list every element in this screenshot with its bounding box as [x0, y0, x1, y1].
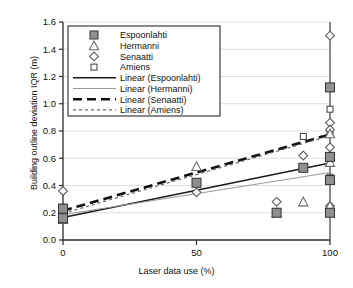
data-point-espoonlahti — [299, 163, 308, 172]
chart-figure: 0.00.20.40.60.81.01.21.41.6050100Espoonl… — [0, 0, 353, 288]
x-tick-label: 50 — [191, 247, 202, 258]
data-point-senaatti — [59, 187, 68, 196]
data-point-espoonlahti — [59, 204, 68, 213]
y-tick-label: 0.8 — [43, 125, 56, 136]
chart-svg: 0.00.20.40.60.81.01.21.41.6050100Espoonl… — [0, 0, 353, 288]
legend-label: Linear (Amiens) — [120, 105, 184, 115]
chart-canvas: 0.00.20.40.60.81.01.21.41.6050100Espoonl… — [0, 0, 353, 288]
data-point-amiens — [327, 106, 333, 112]
y-tick-label: 0.0 — [43, 234, 56, 245]
legend-label: Linear (Senaatti) — [120, 95, 187, 105]
data-point-espoonlahti — [90, 31, 98, 39]
y-tick-label: 0.2 — [43, 207, 56, 218]
legend-label: Espoonlahti — [120, 30, 167, 40]
data-point-amiens — [91, 64, 97, 70]
data-point-espoonlahti — [326, 176, 335, 185]
legend-label: Hermanni — [120, 41, 159, 51]
data-point-hermanni — [299, 197, 308, 206]
y-tick-label: 1.0 — [43, 98, 56, 109]
data-point-senaatti — [326, 143, 335, 152]
data-point-espoonlahti — [59, 214, 68, 223]
y-tick-label: 1.6 — [43, 16, 56, 27]
legend-label: Linear (Espoonlahti) — [120, 73, 201, 83]
y-tick-label: 0.6 — [43, 153, 56, 164]
legend-label: Linear (Hermanni) — [120, 84, 193, 94]
y-tick-label: 1.4 — [43, 44, 56, 55]
legend-label: Amiens — [120, 62, 151, 72]
data-point-hermanni — [192, 162, 201, 171]
y-tick-label: 1.2 — [43, 71, 56, 82]
data-point-espoonlahti — [326, 152, 335, 161]
trendline — [63, 134, 330, 210]
data-point-amiens — [300, 133, 306, 139]
data-point-senaatti — [272, 197, 281, 206]
trendline — [63, 136, 330, 214]
x-axis-title: Laser data use (%) — [0, 266, 353, 276]
data-point-espoonlahti — [272, 208, 281, 217]
data-point-senaatti — [326, 31, 335, 40]
y-axis-title: Building outline deviation IQR (m) — [29, 33, 39, 213]
data-point-espoonlahti — [192, 178, 201, 187]
x-tick-label: 0 — [60, 247, 65, 258]
y-tick-label: 0.4 — [43, 180, 56, 191]
data-point-espoonlahti — [326, 208, 335, 217]
legend-label: Senaatti — [120, 52, 153, 62]
x-tick-label: 100 — [322, 247, 338, 258]
data-point-espoonlahti — [326, 83, 335, 92]
